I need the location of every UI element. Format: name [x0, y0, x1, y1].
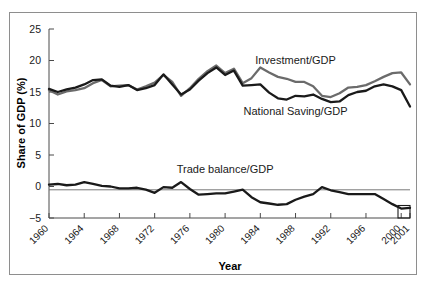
- x-tick-label: 1976: [168, 222, 192, 246]
- x-tick-label: 1980: [203, 222, 227, 246]
- x-tick-label: 1996: [344, 222, 368, 246]
- y-tick-label: 0: [35, 180, 41, 192]
- x-tick-label: 1968: [97, 222, 121, 246]
- series-annotation-investment-gdp: Investment/GDP: [255, 54, 336, 66]
- x-tick-label: 1984: [238, 222, 262, 246]
- y-tick-label: 15: [29, 86, 41, 98]
- series-annotation-trade-balance-gdp: Trade balance/GDP: [177, 163, 274, 175]
- x-tick-label: 1988: [273, 222, 297, 246]
- x-tick-label: 1960: [27, 222, 51, 246]
- y-tick-label: 20: [29, 54, 41, 66]
- y-tick-group: −50510152025: [29, 23, 54, 224]
- y-tick-label: 25: [29, 23, 41, 35]
- series-group: [49, 66, 410, 209]
- series-annotation-group: Investment/GDPNational Saving/GDPTrade b…: [177, 54, 348, 175]
- x-tick-label: 1964: [62, 222, 86, 246]
- series-line-trade-balance-gdp: [49, 182, 410, 208]
- figure-container: −50510152025 196019641968197219761980198…: [0, 0, 427, 288]
- line-chart: −50510152025 196019641968197219761980198…: [0, 0, 427, 288]
- x-tick-label: 1992: [309, 222, 333, 246]
- y-tick-label: 5: [35, 149, 41, 161]
- y-tick-label: 10: [29, 117, 41, 129]
- y-tick-label: −5: [29, 212, 41, 224]
- x-axis-title: Year: [218, 260, 242, 272]
- series-annotation-national-saving-gdp: National Saving/GDP: [244, 105, 348, 117]
- x-tick-label: 1972: [133, 222, 157, 246]
- y-axis-title: Share of GDP (%): [15, 77, 27, 168]
